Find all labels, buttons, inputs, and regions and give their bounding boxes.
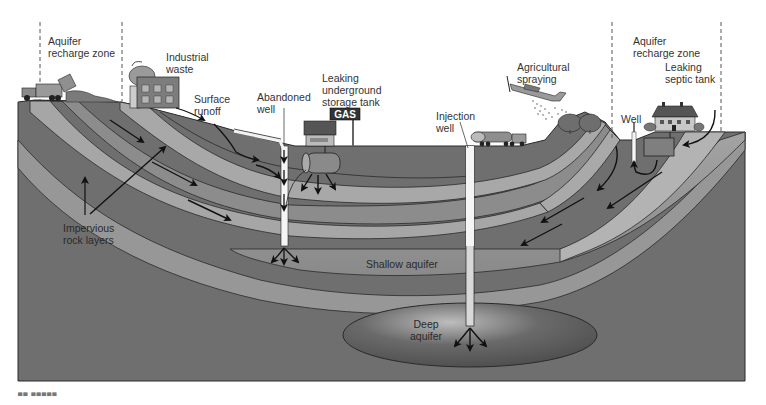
label-aquifer-recharge-zone-left: Aquifer recharge zone: [48, 35, 115, 59]
house-icon: [644, 102, 704, 131]
label-industrial-waste: Industrial waste: [166, 51, 209, 75]
figure-tag: ▀▀ ▀▀▀▀▀: [18, 393, 57, 399]
label-leaking-septic-tank: Leaking septic tank: [665, 61, 715, 85]
svg-text:GAS: GAS: [334, 109, 356, 120]
label-injection-well: Injection well: [436, 110, 475, 134]
label-leaking-underground-storage-tank: Leaking underground storage tank: [322, 72, 382, 108]
garbage-truck-icon: [22, 74, 118, 102]
label-deep-aquifer: Deep aquifer: [410, 318, 442, 342]
label-abandoned-well: Abandoned well: [257, 91, 311, 115]
label-impervious-rock-layers: Impervious rock layers: [63, 222, 114, 246]
label-well: Well: [621, 113, 641, 125]
groundwater-contamination-diagram: GAS: [0, 0, 766, 405]
tanker-truck-icon: [471, 132, 526, 146]
label-shallow-aquifer: Shallow aquifer: [366, 258, 438, 270]
label-agricultural-spraying: Agricultural spraying: [517, 61, 570, 85]
label-surface-runoff: Surface runoff: [194, 93, 230, 117]
label-aquifer-recharge-zone-right: Aquifer recharge zone: [633, 35, 700, 59]
gas-station-icon: GAS: [304, 108, 360, 146]
